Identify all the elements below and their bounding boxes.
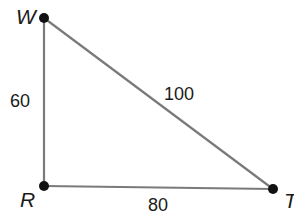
side-wt	[44, 18, 273, 189]
vertex-label-w: W	[16, 6, 36, 27]
vertex-label-r: R	[20, 189, 35, 210]
side-label-rt: 80	[148, 196, 168, 214]
point-r	[39, 181, 49, 191]
vertex-label-t: T	[284, 190, 294, 211]
side-rt	[44, 186, 273, 189]
side-label-wr: 60	[10, 92, 30, 110]
point-t	[268, 184, 278, 194]
triangle-figure	[0, 0, 294, 221]
point-w	[39, 13, 49, 23]
side-label-wt: 100	[164, 85, 194, 103]
